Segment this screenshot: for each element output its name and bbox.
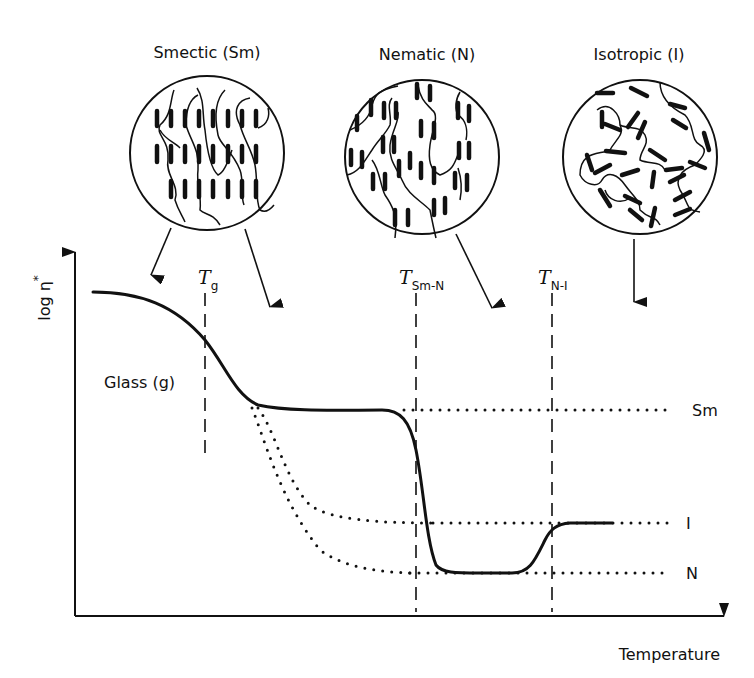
glass-to-n-dotted <box>252 408 410 573</box>
dotted-levels <box>252 408 668 573</box>
smectic-molecular-sketch <box>130 76 284 230</box>
tsmn-label: TSm-N <box>399 266 444 293</box>
smectic-to-glass-arrow <box>151 228 171 275</box>
nematic-to-trough-arrow <box>456 234 492 308</box>
glass-region-label: Glass (g) <box>104 373 175 392</box>
tni-label: TN-I <box>538 266 568 293</box>
y-axis-label: log η* <box>31 275 54 321</box>
axes <box>75 252 724 616</box>
level-label-sm: Sm <box>692 401 718 420</box>
viscosity-curve <box>93 292 612 573</box>
phase-viscosity-diagram: Smectic (Sm) Nematic (N) Isotropic (I) <box>0 0 754 678</box>
level-label-n: N <box>686 564 698 583</box>
tg-label: Tg <box>198 266 218 293</box>
phase-arrows <box>151 228 634 308</box>
nematic-molecular-sketch <box>345 80 499 238</box>
x-axis-label: Temperature <box>618 645 720 664</box>
isotropic-molecular-sketch <box>563 80 717 234</box>
phase-label-nematic: Nematic (N) <box>379 45 475 64</box>
smectic-to-plateau-arrow <box>245 229 270 307</box>
phase-label-smectic: Smectic (Sm) <box>153 43 260 62</box>
level-label-i: I <box>686 514 691 533</box>
transition-lines <box>205 293 552 612</box>
phase-label-isotropic: Isotropic (I) <box>594 45 685 64</box>
